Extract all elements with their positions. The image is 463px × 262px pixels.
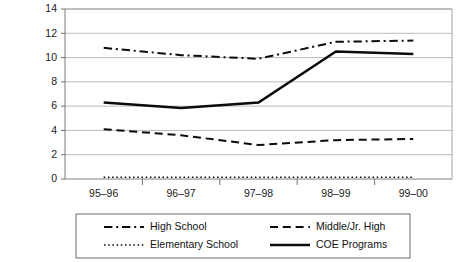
series-line-coe-programs (104, 52, 414, 108)
plot-frame (65, 9, 452, 179)
y-tick-label: 8 (51, 75, 57, 87)
x-tick-labels: 95–9696–9797–9898–9999–00 (89, 187, 428, 199)
x-tick-label: 99–00 (399, 187, 428, 199)
legend-label: Elementary School (150, 238, 238, 250)
y-tick-labels: 02468101214 (45, 2, 57, 184)
x-tick-label: 97–98 (244, 187, 273, 199)
legend-label: High School (150, 220, 207, 232)
y-tick-label: 12 (45, 27, 57, 39)
line-chart: 02468101214 95–9696–9797–9898–9999–00 Hi… (0, 0, 463, 262)
y-tick-label: 2 (51, 148, 57, 160)
y-tick-label: 4 (51, 124, 57, 136)
y-tick-label: 14 (45, 2, 57, 14)
data-series (104, 41, 414, 178)
legend-label: Middle/Jr. High (316, 220, 386, 232)
chart-legend: High SchoolMiddle/Jr. HighElementary Sch… (76, 214, 410, 258)
y-tick-label: 0 (51, 172, 57, 184)
x-axis (142, 179, 374, 185)
series-line-high-school (104, 41, 414, 59)
x-tick-label: 96–97 (166, 187, 195, 199)
gridlines (65, 9, 452, 179)
x-tick-label: 95–96 (89, 187, 118, 199)
x-tick-label: 98–99 (321, 187, 350, 199)
y-tick-label: 10 (45, 51, 57, 63)
y-axis (61, 9, 65, 179)
chart-canvas: 02468101214 95–9696–9797–9898–9999–00 Hi… (0, 0, 463, 262)
y-tick-label: 6 (51, 99, 57, 111)
series-line-middle-jr-high (104, 129, 414, 145)
legend-label: COE Programs (316, 238, 387, 250)
